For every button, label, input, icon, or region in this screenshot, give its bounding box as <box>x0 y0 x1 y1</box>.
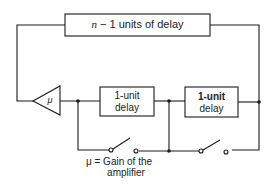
delay2-label: 1-unit delay <box>185 92 238 114</box>
delay1-label: 1-unit delay <box>100 91 154 113</box>
legend-text: μ = Gain of the amplifier <box>78 157 160 178</box>
delay-line-diagram: n − 1 units of delay μ 1-unit delay 1-un… <box>0 0 273 185</box>
top-box-label: n − 1 units of delay <box>65 19 210 30</box>
amplifier-label: μ <box>43 96 57 105</box>
